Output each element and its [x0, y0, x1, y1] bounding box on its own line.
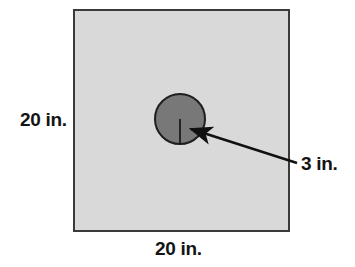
figure-canvas	[0, 0, 355, 267]
geometry-figure: 20 in. 20 in. 3 in.	[0, 0, 355, 267]
bottom-side-dimension-label: 20 in.	[155, 239, 202, 258]
radius-dimension-label: 3 in.	[301, 154, 338, 173]
left-side-dimension-label: 20 in.	[20, 110, 67, 129]
